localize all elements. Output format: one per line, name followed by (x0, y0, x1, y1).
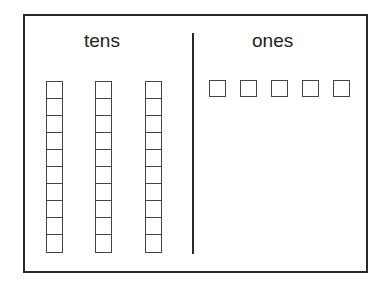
tens-heading: tens (84, 30, 120, 52)
one-cube (209, 80, 226, 97)
column-divider (192, 33, 194, 254)
ten-rod (46, 81, 63, 253)
place-value-frame (23, 14, 368, 273)
ones-heading: ones (252, 30, 293, 52)
one-cube (271, 80, 288, 97)
ten-rod (95, 81, 112, 253)
one-cube (333, 80, 350, 97)
one-cube (302, 80, 319, 97)
one-cube (240, 80, 257, 97)
ten-rod (145, 81, 162, 253)
